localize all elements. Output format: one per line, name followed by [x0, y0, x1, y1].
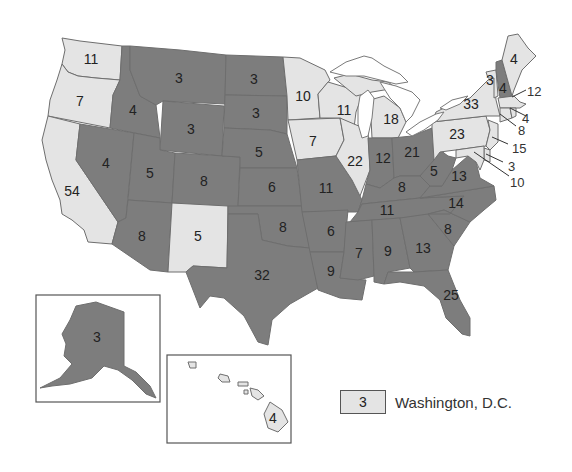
label-wv: 5 — [430, 163, 438, 179]
state-ma — [498, 96, 526, 108]
label-de: 3 — [508, 159, 515, 174]
label-nh: 4 — [499, 80, 507, 96]
label-mn: 10 — [295, 88, 311, 104]
label-co: 8 — [200, 173, 208, 189]
state-hi-lanai — [244, 390, 248, 394]
state-ar — [302, 210, 348, 252]
label-ks: 6 — [268, 179, 276, 195]
label-va: 13 — [451, 168, 467, 184]
label-nj: 15 — [512, 141, 526, 156]
legend: 3 Washington, D.C. — [340, 389, 512, 415]
label-me: 4 — [510, 51, 518, 67]
label-ms: 7 — [355, 245, 363, 261]
state-fl — [384, 270, 470, 336]
label-ar: 6 — [327, 223, 335, 239]
label-nm: 5 — [194, 228, 202, 244]
label-mi: 18 — [383, 111, 399, 127]
label-pa: 23 — [449, 126, 465, 142]
label-ne: 5 — [255, 144, 263, 160]
label-mt: 3 — [175, 70, 183, 86]
label-al: 9 — [384, 243, 392, 259]
label-ut: 5 — [146, 165, 154, 181]
label-ga: 13 — [415, 240, 431, 256]
label-sc: 8 — [444, 221, 452, 237]
label-wa: 11 — [84, 51, 99, 67]
label-oh: 21 — [404, 144, 420, 160]
label-nd: 3 — [250, 71, 258, 87]
state-ak — [40, 302, 156, 398]
label-ia: 7 — [309, 133, 317, 149]
label-ak: 3 — [93, 329, 101, 345]
state-hi-kauai — [188, 362, 196, 368]
label-ca: 54 — [64, 183, 80, 199]
state-hi-molokai — [238, 382, 248, 386]
label-id: 4 — [129, 102, 137, 118]
label-ok: 8 — [279, 219, 287, 235]
state-hi-oahu — [218, 374, 230, 382]
label-or: 7 — [76, 93, 84, 109]
label-wi: 11 — [337, 102, 352, 118]
label-vt: 3 — [486, 72, 494, 88]
label-fl: 25 — [443, 287, 459, 303]
label-in: 12 — [375, 150, 391, 166]
state-hi-maui — [250, 388, 264, 400]
label-ma: 12 — [527, 84, 541, 99]
label-nv: 4 — [102, 155, 110, 171]
label-wy: 3 — [187, 121, 195, 137]
label-sd: 3 — [252, 105, 260, 121]
label-hi: 4 — [269, 410, 277, 426]
label-la: 9 — [327, 263, 335, 279]
label-az: 8 — [138, 228, 146, 244]
label-mo: 11 — [319, 180, 334, 196]
label-ky: 8 — [398, 179, 406, 195]
label-il: 22 — [347, 153, 363, 169]
label-ny: 33 — [463, 96, 479, 112]
label-tn: 11 — [380, 202, 395, 218]
label-ct: 8 — [518, 123, 525, 138]
legend-swatch-dc: 3 — [340, 390, 386, 414]
label-nc: 14 — [448, 195, 464, 211]
label-tx: 32 — [254, 267, 270, 283]
legend-label-dc: Washington, D.C. — [395, 394, 512, 411]
label-md: 10 — [510, 175, 524, 190]
